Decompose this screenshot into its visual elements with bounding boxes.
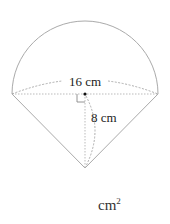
height-dimension-arc	[86, 96, 95, 166]
diameter-dimension-right	[108, 81, 158, 94]
diameter-dimension-left	[12, 81, 62, 94]
answer-blank[interactable]	[50, 196, 94, 214]
diagram: 16 cm 8 cm	[0, 0, 170, 224]
triangle-right-side	[85, 94, 158, 168]
height-label: 8 cm	[91, 110, 117, 125]
triangle-left-side	[12, 94, 85, 168]
unit-text: cm	[98, 197, 116, 213]
right-angle-mark	[77, 94, 85, 102]
unit-exponent: 2	[116, 196, 121, 206]
area-unit: cm2	[98, 196, 121, 214]
center-dot	[83, 92, 86, 95]
diameter-label: 16 cm	[69, 74, 101, 89]
